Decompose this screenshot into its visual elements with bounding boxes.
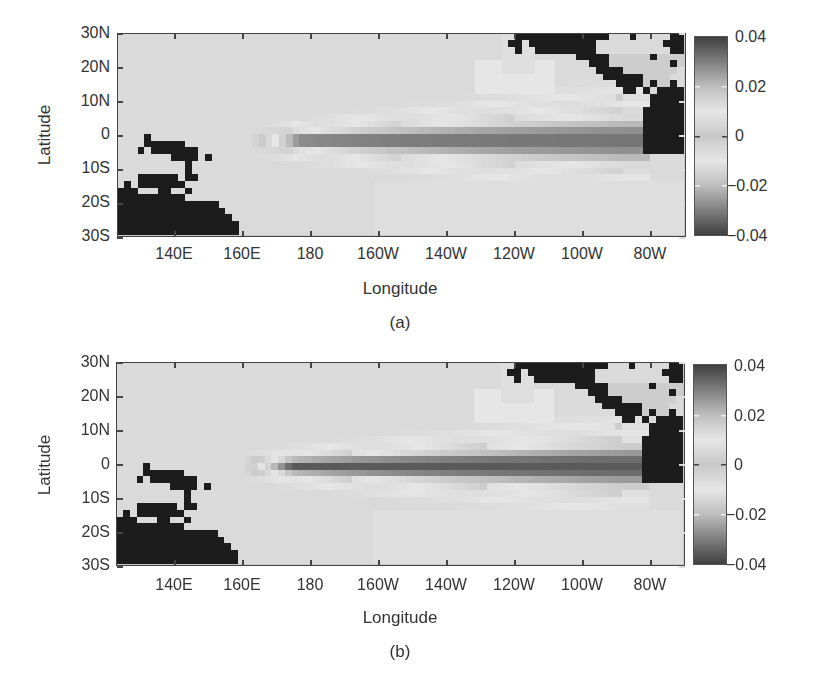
y-tick-mark xyxy=(117,33,123,35)
x-tick-mark xyxy=(310,33,312,39)
y-tick-label: 10N xyxy=(62,422,110,438)
y-tick-mark xyxy=(117,396,123,398)
heatmap-canvas xyxy=(117,363,683,564)
y-tick-mark xyxy=(117,532,123,534)
y-tick-label: 30S xyxy=(62,557,110,573)
y-tick-mark xyxy=(117,135,123,137)
x-tick-mark xyxy=(378,33,380,39)
x-tick-mark xyxy=(446,33,448,39)
x-tick-label: 140W xyxy=(416,577,476,593)
y-tick-label: 0 xyxy=(62,456,110,472)
x-tick-mark xyxy=(174,560,176,566)
y-tick-label: 20S xyxy=(62,524,110,540)
colorbar-tick-label: 0.02 xyxy=(734,408,765,424)
x-tick-mark xyxy=(378,560,380,566)
y-tick-mark xyxy=(679,396,685,398)
x-tick-mark xyxy=(378,362,380,368)
x-tick-mark xyxy=(582,231,584,237)
x-tick-mark xyxy=(242,362,244,368)
heatmap-plot-area xyxy=(116,362,685,566)
y-tick-mark xyxy=(679,203,685,205)
panel-b: Latitude 30N 20N 10N 0 10S 20S 30S 140E … xyxy=(0,0,817,686)
y-tick-mark xyxy=(679,67,685,69)
y-tick-mark xyxy=(679,169,685,171)
y-tick-mark xyxy=(117,67,123,69)
y-tick-mark xyxy=(117,203,123,205)
y-axis-label: Latitude xyxy=(35,415,55,515)
x-tick-mark xyxy=(582,560,584,566)
x-tick-label: 100W xyxy=(552,577,612,593)
x-tick-mark xyxy=(242,560,244,566)
x-tick-mark xyxy=(310,231,312,237)
y-tick-mark xyxy=(679,237,685,239)
x-tick-mark xyxy=(174,362,176,368)
x-tick-mark xyxy=(650,362,652,368)
x-tick-label: 180 xyxy=(280,577,340,593)
x-tick-label: 80W xyxy=(620,577,680,593)
y-tick-mark xyxy=(679,33,685,35)
x-tick-mark xyxy=(650,560,652,566)
x-tick-mark xyxy=(242,231,244,237)
x-tick-label: 120W xyxy=(484,577,544,593)
x-tick-mark xyxy=(242,33,244,39)
x-tick-mark xyxy=(446,362,448,368)
y-tick-mark xyxy=(679,135,685,137)
x-tick-mark xyxy=(514,362,516,368)
x-tick-mark xyxy=(378,231,380,237)
y-tick-mark xyxy=(679,498,685,500)
y-tick-mark xyxy=(117,430,123,432)
y-tick-label: 20N xyxy=(62,388,110,404)
x-tick-mark xyxy=(310,560,312,566)
x-tick-mark xyxy=(174,231,176,237)
y-tick-label: 30N xyxy=(62,354,110,370)
y-tick-mark xyxy=(117,101,123,103)
x-tick-mark xyxy=(446,231,448,237)
x-tick-mark xyxy=(650,231,652,237)
colorbar-tick-label: −0.02 xyxy=(726,507,766,523)
x-tick-mark xyxy=(310,362,312,368)
panel-caption: (b) xyxy=(370,642,430,662)
y-tick-mark xyxy=(117,566,123,568)
x-tick-mark xyxy=(514,33,516,39)
colorbar-tick-label: 0.04 xyxy=(734,358,765,374)
x-axis-label: Longitude xyxy=(300,608,500,628)
x-tick-mark xyxy=(174,33,176,39)
y-tick-label: 10S xyxy=(62,490,110,506)
x-tick-mark xyxy=(446,560,448,566)
x-tick-mark xyxy=(582,362,584,368)
x-tick-mark xyxy=(582,33,584,39)
y-tick-mark xyxy=(117,169,123,171)
y-tick-mark xyxy=(679,362,685,364)
y-tick-mark xyxy=(679,430,685,432)
colorbar-tick-label: −0.04 xyxy=(726,557,766,573)
colorbar-tick-label: 0 xyxy=(734,457,743,473)
y-tick-mark xyxy=(679,566,685,568)
x-tick-label: 160E xyxy=(212,577,272,593)
y-tick-mark xyxy=(117,237,123,239)
y-tick-mark xyxy=(117,464,123,466)
y-tick-mark xyxy=(679,464,685,466)
x-tick-mark xyxy=(514,231,516,237)
x-tick-mark xyxy=(650,33,652,39)
x-tick-label: 140E xyxy=(144,577,204,593)
y-tick-mark xyxy=(679,101,685,103)
y-tick-mark xyxy=(117,498,123,500)
colorbar-gradient xyxy=(694,365,726,564)
x-tick-mark xyxy=(514,560,516,566)
y-tick-mark xyxy=(117,362,123,364)
y-tick-mark xyxy=(679,532,685,534)
colorbar xyxy=(693,364,727,565)
x-tick-label: 160W xyxy=(348,577,408,593)
